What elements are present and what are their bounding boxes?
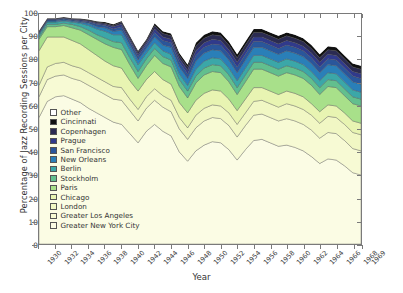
x-tick-mark: [354, 245, 355, 249]
legend-item-berlin[interactable]: Berlin: [50, 164, 139, 173]
y-tick-mark: [32, 222, 37, 223]
x-tick-mark: [121, 245, 122, 249]
x-tick-mark: [154, 245, 155, 249]
legend-item-prague[interactable]: Prague: [50, 136, 139, 145]
y-tick-mark: [32, 106, 37, 107]
x-tick-mark-top: [354, 14, 355, 18]
legend-swatch-icon: [50, 185, 57, 192]
x-tick-mark-top: [254, 14, 255, 18]
jazz-recording-sessions-stacked-area-chart: Percentage of Jazz Recording Sessions pe…: [0, 0, 403, 293]
x-tick-label: 1954: [245, 249, 263, 267]
legend-item-paris[interactable]: Paris: [50, 183, 139, 192]
y-tick-mark: [32, 199, 37, 200]
y-tick-mark-right: [357, 222, 362, 223]
x-tick-mark-top: [237, 14, 238, 18]
legend-label: Prague: [61, 136, 86, 145]
x-tick-label: 1930: [46, 249, 64, 267]
x-tick-mark: [271, 245, 272, 249]
legend-item-chicago[interactable]: Chicago: [50, 193, 139, 202]
x-tick-mark-top: [38, 14, 39, 18]
x-tick-mark: [171, 245, 172, 249]
legend-swatch-icon: [50, 166, 57, 173]
y-tick-mark-right: [357, 59, 362, 60]
x-tick-mark-top: [121, 14, 122, 18]
legend-swatch-icon: [50, 138, 57, 145]
x-tick-mark-top: [138, 14, 139, 18]
legend-item-cincinnati[interactable]: Cincinnati: [50, 117, 139, 126]
x-tick-mark: [304, 245, 305, 249]
x-tick-mark-top: [320, 14, 321, 18]
x-tick-mark: [138, 245, 139, 249]
x-tick-mark-top: [271, 14, 272, 18]
y-tick-mark: [32, 152, 37, 153]
legend-swatch-icon: [50, 128, 57, 135]
x-tick-mark: [88, 245, 89, 249]
x-tick-mark-top: [362, 14, 363, 18]
y-tick-mark-right: [357, 129, 362, 130]
x-tick-mark: [55, 245, 56, 249]
legend-swatch-icon: [50, 147, 57, 154]
legend-label: Chicago: [61, 193, 90, 202]
legend-item-greater-los-angeles[interactable]: Greater Los Angeles: [50, 211, 139, 220]
legend-swatch-icon: [50, 203, 57, 210]
legend-label: Berlin: [61, 164, 82, 173]
y-tick-mark: [32, 129, 37, 130]
y-tick-mark: [32, 13, 37, 14]
x-tick-label: 1956: [262, 249, 280, 267]
legend-label: London: [61, 202, 87, 211]
legend-label: Stockholm: [61, 174, 99, 183]
y-tick-mark-right: [357, 83, 362, 84]
legend-item-copenhagen[interactable]: Copenhagen: [50, 127, 139, 136]
x-tick-label: 1946: [179, 249, 197, 267]
y-tick-mark: [32, 175, 37, 176]
y-tick-mark: [32, 245, 37, 246]
x-tick-mark-top: [55, 14, 56, 18]
x-tick-mark: [71, 245, 72, 249]
legend-swatch-icon: [50, 194, 57, 201]
x-axis-title: Year: [0, 272, 403, 282]
x-tick-mark: [188, 245, 189, 249]
legend-swatch-icon: [50, 213, 57, 220]
x-tick-mark-top: [88, 14, 89, 18]
legend-label: Other: [61, 108, 81, 117]
x-tick-mark: [254, 245, 255, 249]
x-tick-mark: [104, 245, 105, 249]
y-tick-mark: [32, 83, 37, 84]
x-tick-label: 1940: [129, 249, 147, 267]
legend-item-greater-new-york-city[interactable]: Greater New York City: [50, 221, 139, 230]
x-tick-label: 1948: [195, 249, 213, 267]
x-tick-label: 1962: [312, 249, 330, 267]
x-tick-mark: [204, 245, 205, 249]
x-tick-label: 1950: [212, 249, 230, 267]
x-tick-mark-top: [171, 14, 172, 18]
legend: OtherCincinnatiCopenhagenPragueSan Franc…: [50, 108, 139, 230]
legend-item-new-orleans[interactable]: New Orleans: [50, 155, 139, 164]
legend-label: New Orleans: [61, 155, 107, 164]
legend-item-other[interactable]: Other: [50, 108, 139, 117]
x-tick-mark: [237, 245, 238, 249]
legend-label: San Francisco: [61, 146, 110, 155]
legend-label: Greater New York City: [61, 221, 140, 230]
legend-item-san-francisco[interactable]: San Francisco: [50, 146, 139, 155]
y-tick-mark-right: [357, 199, 362, 200]
x-tick-mark: [287, 245, 288, 249]
legend-swatch-icon: [50, 222, 57, 229]
x-tick-label: 1964: [328, 249, 346, 267]
legend-label: Paris: [61, 183, 78, 192]
legend-item-london[interactable]: London: [50, 202, 139, 211]
y-tick-mark-right: [357, 175, 362, 176]
x-tick-label: 1938: [112, 249, 130, 267]
x-tick-label: 1960: [295, 249, 313, 267]
x-tick-mark-top: [221, 14, 222, 18]
legend-item-stockholm[interactable]: Stockholm: [50, 174, 139, 183]
y-tick-mark-right: [357, 36, 362, 37]
legend-label: Greater Los Angeles: [61, 211, 134, 220]
x-tick-mark-top: [304, 14, 305, 18]
y-tick-mark-right: [357, 106, 362, 107]
x-tick-mark-top: [287, 14, 288, 18]
x-tick-label: 1932: [63, 249, 81, 267]
x-tick-mark: [38, 245, 39, 249]
legend-label: Cincinnati: [61, 117, 97, 126]
x-tick-mark-top: [154, 14, 155, 18]
x-tick-label: 1936: [96, 249, 114, 267]
